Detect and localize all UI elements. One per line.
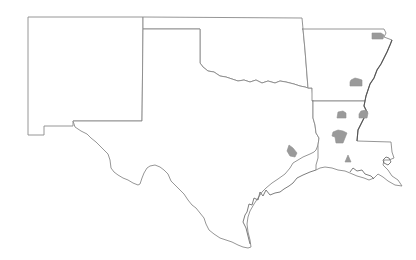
- map-canvas: [0, 0, 416, 260]
- area-north-louisiana-west[interactable]: [337, 111, 346, 118]
- state-arkansas[interactable]: [302, 29, 392, 101]
- area-ne-arkansas[interactable]: [372, 33, 384, 39]
- state-new-mexico[interactable]: [28, 17, 143, 135]
- state-louisiana[interactable]: [312, 100, 402, 186]
